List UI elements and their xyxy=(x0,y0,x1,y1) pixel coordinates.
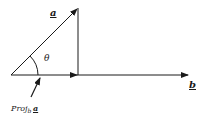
projection-prefix: Proj xyxy=(11,104,28,113)
vector-b-label: b xyxy=(189,80,196,90)
projection-label: Projb a xyxy=(11,104,38,113)
projection-pointer-arrow xyxy=(31,78,40,97)
projection-vector: a xyxy=(33,103,38,113)
projection-subscript: b xyxy=(28,107,32,114)
angle-arc xyxy=(30,56,38,75)
angle-theta-label: θ xyxy=(44,54,49,63)
projection-diagram xyxy=(0,0,204,117)
vector-a-arrow xyxy=(11,9,77,75)
vector-a-label: a xyxy=(50,8,56,18)
